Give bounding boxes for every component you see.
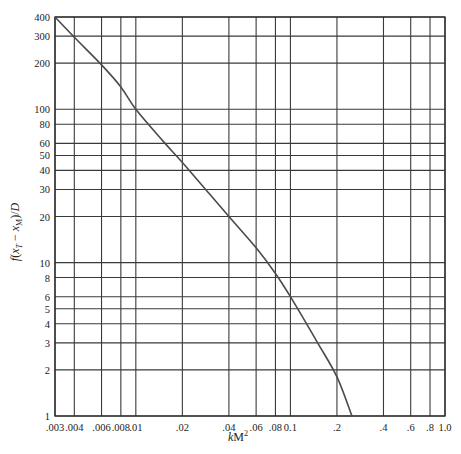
chart-canvas: .003.004.006.008.01.02.04.06.080.1.2.4.6… <box>0 0 461 454</box>
x-tick-label: .2 <box>333 422 341 433</box>
x-tick-label: .008 <box>112 422 130 433</box>
y-axis-label: f(xT − xM)/D <box>8 202 24 261</box>
x-axis-label-M: M <box>233 430 244 444</box>
x-tick-label: .004 <box>65 422 84 433</box>
y-axis-label-D: D <box>8 202 22 212</box>
x-tick-label: .4 <box>380 422 389 433</box>
y-tick-label: 300 <box>34 31 50 42</box>
x-tick-label: .06 <box>250 422 263 433</box>
y-tick-label: 4 <box>45 319 51 330</box>
y-tick-label: 200 <box>34 58 50 69</box>
y-tick-label: 80 <box>40 119 51 130</box>
x-tick-label: .003 <box>46 422 64 433</box>
x-axis-label: kM2 <box>228 429 248 444</box>
x-tick-label: .006 <box>92 422 110 433</box>
y-tick-labels: 123456810203040506080100200300400 <box>34 12 51 422</box>
x-tick-label: .8 <box>426 422 434 433</box>
y-tick-label: 40 <box>40 165 51 176</box>
x-tick-label: .08 <box>269 422 282 433</box>
y-tick-label: 30 <box>40 184 51 195</box>
x-tick-label: .6 <box>407 422 415 433</box>
y-tick-label: 400 <box>34 12 50 23</box>
y-tick-label: 8 <box>45 273 50 284</box>
x-tick-labels: .003.004.006.008.01.02.04.06.080.1.2.4.6… <box>46 422 452 433</box>
x-tick-label: 1.0 <box>438 422 451 433</box>
y-tick-label: 2 <box>45 365 50 376</box>
y-tick-label: 3 <box>45 338 50 349</box>
x-tick-label: .02 <box>176 422 189 433</box>
y-axis-label-minus: − <box>8 231 22 244</box>
y-tick-label: 20 <box>40 212 51 223</box>
y-tick-label: 10 <box>40 258 51 269</box>
y-tick-label: 50 <box>40 150 51 161</box>
x-tick-label: 0.1 <box>284 422 297 433</box>
x-tick-label: .01 <box>129 422 142 433</box>
y-tick-label: 6 <box>45 292 50 303</box>
y-tick-label: 1 <box>45 411 50 422</box>
y-tick-label: 100 <box>34 104 50 115</box>
y-tick-label: 5 <box>45 304 50 315</box>
y-axis-label-sub-M: M <box>15 219 24 226</box>
x-axis-label-exponent: 2 <box>244 429 248 438</box>
y-tick-label: 60 <box>40 138 51 149</box>
